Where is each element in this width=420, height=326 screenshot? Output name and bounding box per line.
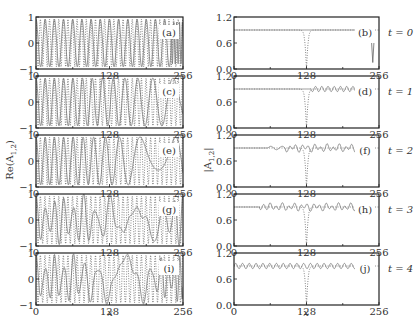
y-tick-label: 0.6 — [216, 274, 232, 285]
right-y-axis-label: |A1,2| — [202, 147, 216, 172]
y-tick-label: 1.2 — [216, 12, 232, 23]
panel-label: (b) — [358, 27, 372, 38]
y-tick-label: 1 — [28, 71, 34, 82]
y-tick-label: 1.2 — [216, 248, 232, 259]
y-tick-label: 1 — [28, 189, 34, 200]
time-label-4: t = 4 — [388, 263, 413, 274]
panel-label: (a) — [162, 27, 176, 38]
y-tick-label: 0.6 — [216, 215, 232, 226]
panel-label: (j) — [360, 263, 371, 274]
y-tick-label: 0.6 — [216, 38, 232, 49]
panel-a: 0128256−101(a) — [19, 12, 192, 82]
y-tick-label: 1.2 — [216, 189, 232, 200]
time-label-1: t = 1 — [388, 86, 413, 97]
right-x-axis-label: x — [303, 307, 309, 318]
panel-label: (g) — [162, 204, 176, 215]
y-tick-label: 0.6 — [216, 97, 232, 108]
y-tick-label: 1 — [28, 248, 34, 259]
y-tick-label: 0.6 — [216, 156, 232, 167]
figure-canvas: 0128256−101(a)0128256−101(c)0128256−101(… — [0, 0, 420, 326]
y-tick-label: 0 — [28, 38, 34, 49]
time-label-2: t = 2 — [388, 145, 413, 156]
panel-label: (f) — [359, 145, 371, 156]
panel-label: (i) — [163, 263, 174, 274]
panel-frame — [234, 17, 379, 69]
panel-frame — [234, 76, 379, 128]
y-tick-label: 0 — [28, 274, 34, 285]
solid-dip-line — [372, 43, 374, 63]
y-tick-label: 0 — [28, 215, 34, 226]
panel-frame — [234, 194, 379, 246]
x-tick-label: 256 — [369, 306, 388, 317]
y-tick-label: 1.2 — [216, 71, 232, 82]
y-tick-label: 1.2 — [216, 130, 232, 141]
panel-label: (h) — [358, 204, 372, 215]
panel-label: (e) — [162, 145, 176, 156]
time-label-0: t = 0 — [388, 27, 414, 38]
y-tick-label: 0 — [28, 156, 34, 167]
panel-label: (d) — [358, 86, 372, 97]
panel-label: (c) — [162, 86, 176, 97]
left-x-axis-label: x — [107, 307, 113, 318]
time-label-3: t = 3 — [388, 204, 413, 215]
y-tick-label: 0 — [28, 97, 34, 108]
y-tick-label: 1 — [28, 130, 34, 141]
y-tick-label: 0.0 — [216, 300, 232, 311]
x-tick-label: 256 — [173, 306, 192, 317]
panel-frame — [234, 135, 379, 187]
left-y-axis-label: Re(A1,2) — [4, 140, 18, 180]
panel-b: 01282560.00.61.2(b) — [216, 12, 388, 82]
solid-series-line — [234, 144, 368, 153]
y-tick-label: 1 — [28, 12, 34, 23]
panel-frame — [234, 253, 379, 305]
y-tick-label: −1 — [19, 300, 34, 311]
